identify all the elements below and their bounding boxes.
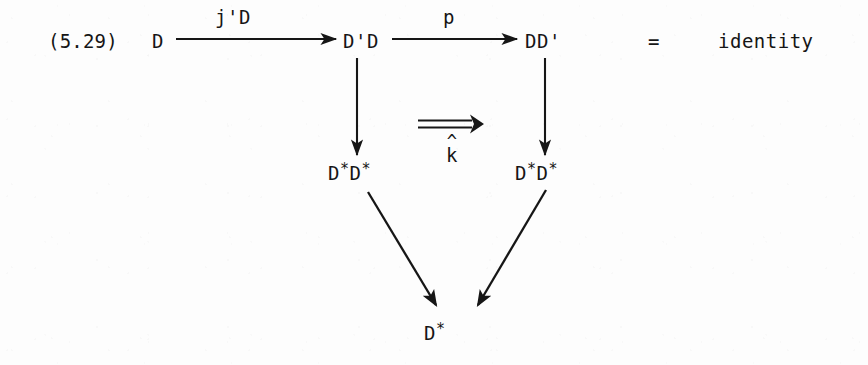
paper-texture-overlay [0,0,868,365]
object-middle-left-star2: * [361,160,371,178]
arrow-label-j-prime-d: j'D [215,8,251,27]
relation-value-identity: identity [718,32,814,51]
object-bottom-center-d: D [424,322,436,344]
arrow-label-k-letter: k [446,144,458,166]
object-bottom-center: D* [424,324,445,343]
arrow-label-k-hat: ^ k [441,136,463,165]
object-middle-left-d2: D [349,162,361,184]
object-middle-left-star1: * [340,160,350,178]
object-middle-right-d2: D [536,162,548,184]
object-top-left: D [152,32,164,51]
arrow-label-p: p [443,8,455,27]
arrow-diagonal-left [368,192,436,305]
equation-number: (5.29) [48,32,118,51]
arrow-layer: D'D --> DD' --> [0,0,868,365]
object-middle-right-star2: * [548,160,558,178]
diagram-page: D'D --> DD' --> (5.29) D D'D DD' = ident… [0,0,868,365]
object-top-middle: D'D [343,32,379,51]
relation-symbol: = [648,32,660,51]
arrow-diagonal-right [478,190,546,305]
object-top-right: DD' [525,32,561,51]
object-middle-left-d1: D [328,162,340,184]
object-bottom-center-star: * [436,320,446,338]
object-middle-right: D*D* [515,164,558,183]
object-middle-left: D*D* [328,164,371,183]
object-middle-right-star1: * [527,160,537,178]
object-middle-right-d1: D [515,162,527,184]
